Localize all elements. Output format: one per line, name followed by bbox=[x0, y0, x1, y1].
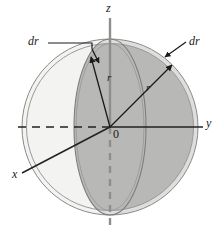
x-axis-label: x bbox=[12, 168, 17, 180]
thickness-label-right: dr bbox=[189, 35, 200, 47]
origin-label: 0 bbox=[113, 128, 119, 140]
z-axis-label: z bbox=[106, 2, 111, 14]
radius-label-right: r bbox=[146, 82, 150, 93]
dr-leader-right bbox=[165, 42, 186, 57]
radius-label-left: r bbox=[107, 72, 111, 83]
y-axis-label: y bbox=[206, 117, 211, 129]
sphere-shell-figure: z y x 0 r r dr dr bbox=[0, 0, 221, 231]
thickness-label-left: dr bbox=[28, 35, 39, 47]
